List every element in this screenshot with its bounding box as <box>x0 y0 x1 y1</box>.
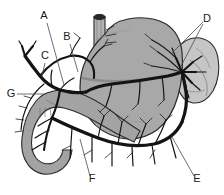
label-a: A <box>40 9 48 21</box>
leader-line-a <box>47 23 64 85</box>
label-d: D <box>203 12 211 24</box>
esophagus-lumen <box>94 14 105 19</box>
label-e: E <box>193 172 200 184</box>
label-g: G <box>7 87 16 99</box>
hepatic-branches-vessel <box>22 46 33 56</box>
label-f: F <box>89 172 96 184</box>
label-c: C <box>41 49 49 61</box>
anatomy-illustration: A B C D E F G <box>0 0 224 195</box>
leader-line-f <box>80 139 90 176</box>
anatomy-figure: A B C D E F G <box>0 0 224 195</box>
label-b: B <box>63 30 70 42</box>
